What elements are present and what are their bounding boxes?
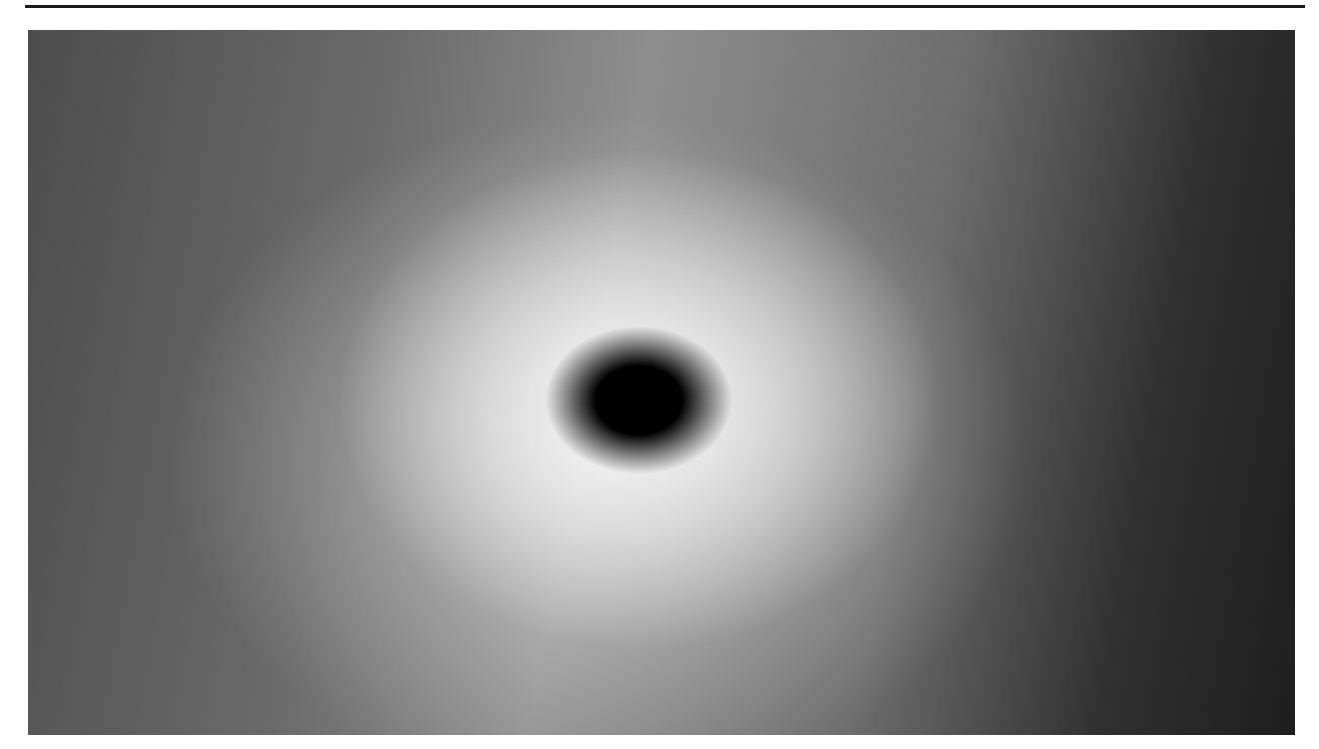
plate-fallback-gradient <box>28 30 1295 735</box>
photographic-plate <box>28 30 1295 735</box>
top-horizontal-rule <box>25 5 1305 8</box>
page-root <box>0 0 1319 749</box>
